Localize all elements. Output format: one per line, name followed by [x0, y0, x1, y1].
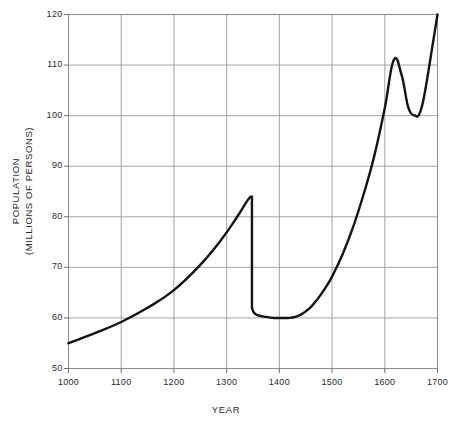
y-tick-label: 50 — [37, 363, 63, 373]
plot-border — [69, 15, 438, 369]
x-tick-label: 1400 — [259, 377, 299, 387]
x-tick-label: 1100 — [101, 377, 141, 387]
gridlines — [69, 15, 438, 369]
y-tick-label: 80 — [37, 211, 63, 221]
plot-frame — [64, 15, 438, 374]
y-tick-label: 70 — [37, 261, 63, 271]
population-chart-figure: POPULATION (MILLIONS OF PERSONS) YEAR 12… — [0, 0, 452, 427]
x-tick-label: 1500 — [312, 377, 352, 387]
chart-plot-area — [0, 0, 452, 427]
x-tick-label: 1600 — [365, 377, 405, 387]
data-series-group — [69, 15, 438, 344]
x-tick-label: 1700 — [418, 377, 452, 387]
y-tick-label: 110 — [37, 59, 63, 69]
x-tick-label: 1000 — [49, 377, 89, 387]
y-tick-label: 60 — [37, 312, 63, 322]
x-tick-label: 1200 — [154, 377, 194, 387]
y-tick-label: 120 — [37, 9, 63, 19]
y-tick-label: 90 — [37, 160, 63, 170]
x-tick-label: 1300 — [207, 377, 247, 387]
y-tick-label: 100 — [37, 110, 63, 120]
data-line-population — [69, 15, 438, 344]
